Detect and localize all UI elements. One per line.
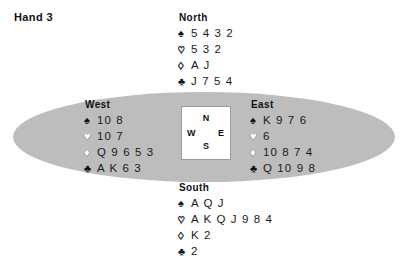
club-icon: ♣ [178, 246, 191, 257]
hand-east-spades: K 9 7 6 [263, 114, 307, 126]
compass-box: N W E S [181, 106, 231, 160]
hand-east-spades-row: ♠ K 9 7 6 [250, 112, 316, 128]
spade-icon: ♠ [84, 115, 97, 126]
hand-east-label: East [250, 99, 316, 110]
hand-west-diamonds: Q 9 6 5 3 [97, 146, 154, 158]
heart-icon: ♥ [250, 131, 263, 142]
heart-icon: ♥ [178, 44, 191, 55]
hand-east: East ♠ K 9 7 6 ♥ 6 ♦ 10 8 7 4 ♣ Q 10 9 8 [250, 99, 316, 176]
hand-south-diamonds-row: ♦ K 2 [178, 227, 273, 243]
heart-icon: ♥ [84, 131, 97, 142]
hand-east-diamonds: 10 8 7 4 [263, 146, 313, 158]
compass-label-west: W [187, 129, 196, 138]
hand-east-diamonds-row: ♦ 10 8 7 4 [250, 144, 316, 160]
hand-east-clubs: Q 10 9 8 [263, 162, 316, 174]
hand-north-spades: 5 4 3 2 [191, 27, 234, 39]
hand-south-spades-row: ♠ A Q J [178, 195, 273, 211]
spade-icon: ♠ [250, 115, 263, 126]
hand-south-label: South [178, 182, 273, 193]
hand-north-hearts-row: ♥ 5 3 2 [178, 41, 234, 57]
compass-label-north: N [203, 114, 210, 123]
hand-south-clubs-row: ♣ 2 [178, 243, 273, 259]
heart-icon: ♥ [178, 214, 191, 225]
hand-north-diamonds: A J [191, 59, 210, 71]
club-icon: ♣ [178, 76, 191, 87]
hand-east-clubs-row: ♣ Q 10 9 8 [250, 160, 316, 176]
spade-icon: ♠ [178, 198, 191, 209]
compass-label-south: S [203, 142, 209, 151]
hand-west-spades-row: ♠ 10 8 [84, 112, 154, 128]
hand-south: South ♠ A Q J ♥ A K Q J 9 8 4 ♦ K 2 ♣ 2 [178, 182, 273, 259]
spade-icon: ♠ [178, 28, 191, 39]
diamond-icon: ♦ [178, 230, 191, 241]
hand-west-label: West [84, 99, 154, 110]
hand-west-clubs: A K 6 3 [97, 162, 142, 174]
hand-west-clubs-row: ♣ A K 6 3 [84, 160, 154, 176]
hand-south-hearts-row: ♥ A K Q J 9 8 4 [178, 211, 273, 227]
hand-south-spades: A Q J [191, 197, 225, 209]
hand-north-label: North [178, 12, 234, 23]
hand-north-diamonds-row: ♦ A J [178, 57, 234, 73]
hand-south-hearts: A K Q J 9 8 4 [191, 213, 273, 225]
hand-north-clubs: J 7 5 4 [191, 75, 233, 87]
compass-label-east: E [218, 129, 224, 138]
hand-north-spades-row: ♠ 5 4 3 2 [178, 25, 234, 41]
club-icon: ♣ [250, 163, 263, 174]
hand-north: North ♠ 5 4 3 2 ♥ 5 3 2 ♦ A J ♣ J 7 5 4 [178, 12, 234, 89]
club-icon: ♣ [84, 163, 97, 174]
diamond-icon: ♦ [178, 60, 191, 71]
hand-west: West ♠ 10 8 ♥ 10 7 ♦ Q 9 6 5 3 ♣ A K 6 3 [84, 99, 154, 176]
hand-north-clubs-row: ♣ J 7 5 4 [178, 73, 234, 89]
hand-west-hearts-row: ♥ 10 7 [84, 128, 154, 144]
page-title: Hand 3 [14, 11, 53, 23]
hand-west-hearts: 10 7 [97, 130, 124, 142]
hand-west-spades: 10 8 [97, 114, 124, 126]
diamond-icon: ♦ [84, 147, 97, 158]
diamond-icon: ♦ [250, 147, 263, 158]
hand-south-clubs: 2 [191, 245, 199, 257]
hand-east-hearts: 6 [263, 130, 271, 142]
hand-north-hearts: 5 3 2 [191, 43, 222, 55]
hand-west-diamonds-row: ♦ Q 9 6 5 3 [84, 144, 154, 160]
bridge-hand-diagram: Hand 3 N W E S North ♠ 5 4 3 2 ♥ 5 3 2 ♦… [0, 0, 408, 270]
hand-east-hearts-row: ♥ 6 [250, 128, 316, 144]
hand-south-diamonds: K 2 [191, 229, 212, 241]
